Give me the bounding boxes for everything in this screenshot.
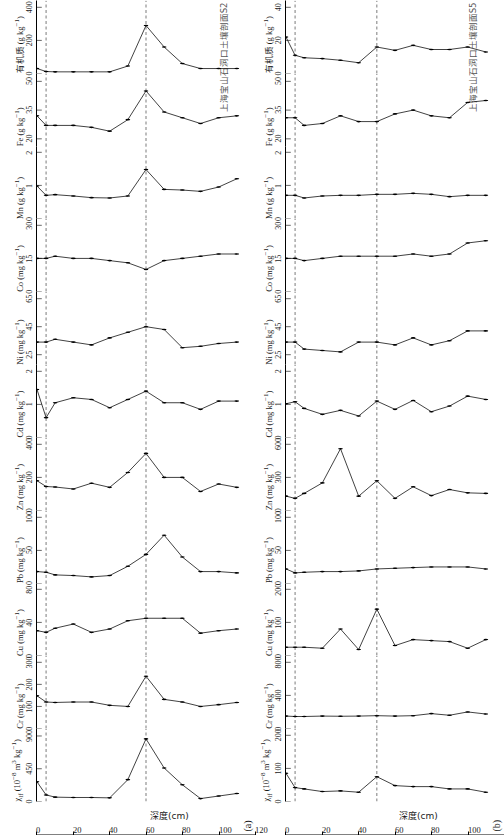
data-point [293,400,298,402]
subplot-header: Mn (g kg−1)012 [255,146,285,219]
value-tick-labels: 012 [25,364,35,437]
data-point [144,675,149,677]
plot-area [36,510,255,583]
plot-area [285,73,504,146]
plot-area [285,291,504,364]
data-point [429,785,434,787]
value-tick-labels: 01530 [274,219,284,292]
depth-axis: 020406080100120深度(cm) [6,801,255,835]
data-point [162,533,167,535]
data-point [216,116,221,118]
depth-axis-title: 深度(cm) [399,809,438,822]
data-point [411,253,416,255]
data-point [180,257,185,259]
depth-tick-label: 100 [219,824,232,834]
value-tick-label: 900 [25,729,34,741]
data-point [71,195,76,197]
data-point [71,257,76,259]
data-point [89,575,94,577]
data-point [483,195,488,197]
subplot-Zn: Zn (mg kg−1)0300600 [255,437,504,510]
subplot-header: Co (mg kg−1)01530 [6,219,36,292]
data-point [71,623,76,625]
data-point [286,772,288,774]
data-point [374,194,379,196]
data-point [411,108,416,110]
value-tick-labels: 050100 [25,510,35,583]
depth-tick-label: 0 [285,824,289,834]
data-point [374,608,379,610]
value-tick-label: 50 [25,545,34,553]
value-tick-label: 0 [274,508,283,512]
data-point [216,342,221,344]
subplot-Cu: Cu (mg kg−1)04080 [6,583,255,656]
value-axis-label: χlf (10−8 m3 kg−1) [10,739,25,801]
plot-area [285,364,504,437]
profile-S5: (b)上海宝山石洞口土壤剖面S5020406080100120深度(cm)χlf… [255,0,504,835]
value-tick-label: 1 [274,183,283,187]
data-point [411,715,416,717]
data-point [465,46,470,48]
series-svg [37,510,255,583]
data-point [338,255,343,257]
data-point [37,570,39,572]
value-axis-label: Ni (mg kg−1) [262,319,274,364]
data-point [429,255,434,257]
value-tick-label: 1 [25,183,34,187]
value-tick-label: 2 [274,150,283,154]
value-tick-label: 50 [274,545,283,553]
depth-tick-label: 40 [358,824,367,834]
data-point [338,59,343,61]
data-point [447,196,452,198]
series-svg [37,364,255,437]
value-tick-label: 20 [274,134,283,142]
data-point [234,114,239,116]
data-point [162,476,167,478]
subplot-Mn: Mn (g kg−1)012 [6,146,255,219]
value-tick-labels: 254565 [274,291,284,364]
data-point [180,555,185,557]
data-point [37,388,39,390]
value-tick-label: 30 [25,221,34,229]
series-line [37,254,237,269]
value-tick-labels: 0200400 [25,437,35,510]
subplot-header: Zn (mg kg−1)0300600 [255,437,285,510]
data-point [338,114,343,116]
data-point [302,715,307,717]
data-point [144,390,149,392]
data-point [234,341,239,343]
data-point [411,485,416,487]
value-tick-labels: 0100200300 [25,655,35,728]
series-line [37,618,237,633]
depth-tick-label: 20 [73,824,82,834]
value-tick-labels: 02040 [274,0,284,73]
series-svg [37,728,255,801]
data-point [411,785,416,787]
data-point [144,617,149,619]
data-point [180,189,185,191]
plot-area [36,73,255,146]
subplot-Pb: Pb (mg kg−1)050100 [255,510,504,583]
depth-tick-label: 20 [322,824,331,834]
subplot-Pb: Pb (mg kg−1)050100 [6,510,255,583]
series-svg [37,0,255,73]
data-point [162,46,167,48]
series-line [286,566,486,572]
subplot-chi-lf: χlf (10−8 m3 kg−1)0450900 [6,728,255,801]
data-point [338,409,343,411]
value-tick-labels: 0400800 [274,655,284,728]
data-point [483,639,488,641]
subplot-header: Fe (g kg−1)203550 [255,73,285,146]
depth-tick-label: 80 [431,824,440,834]
data-point [286,495,288,497]
data-point [53,255,58,257]
series-line [286,331,486,352]
value-tick-label: 15 [274,254,283,262]
value-tick-label: 2 [25,369,34,373]
value-axis-label: χlf (10−8 m3 kg−1) [259,739,274,801]
series-line [37,389,237,417]
series-svg [286,146,504,219]
plot-area [36,364,255,437]
series-line [286,609,486,649]
subplot-header: 有机质 (g kg−1)02040 [255,0,285,73]
